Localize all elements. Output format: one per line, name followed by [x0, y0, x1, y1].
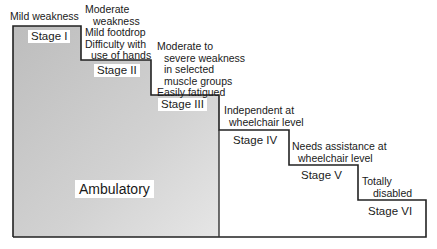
stage-5-label: Stage V	[298, 169, 345, 182]
stage-2-label: Stage II	[94, 64, 140, 77]
desc-line: Mild footdrop	[85, 26, 146, 38]
stage-1-label: Stage I	[28, 30, 70, 43]
stage-4-description: Independent at wheelchair level	[224, 105, 304, 128]
stage-5-description: Needs assistance at wheelchair level	[292, 141, 387, 164]
desc-line: Moderate to	[157, 40, 213, 52]
desc-line: muscle groups	[157, 75, 232, 87]
desc-line: Totally	[362, 175, 392, 187]
stage-4-label: Stage IV	[230, 134, 280, 147]
desc-line: Difficulty with	[85, 38, 146, 50]
stage-2-description: Moderate weakness Mild footdrop Difficul…	[85, 4, 151, 62]
desc-line: Independent at	[224, 104, 294, 116]
stage-3-label: Stage III	[158, 98, 207, 111]
desc-line: use of hands	[85, 49, 151, 61]
desc-line: Mild weakness	[10, 10, 79, 22]
desc-line: Easily fatigued	[157, 86, 225, 98]
desc-line: in selected	[157, 63, 214, 75]
stage-1-description: Mild weakness	[10, 11, 79, 23]
desc-line: Moderate	[85, 3, 129, 15]
ambulatory-label: Ambulatory	[75, 180, 154, 198]
desc-line: severe weakness	[157, 52, 245, 64]
desc-line: wheelchair level	[292, 152, 373, 164]
desc-line: disabled	[362, 187, 412, 199]
stage-6-description: Totally disabled	[362, 176, 412, 199]
desc-line: Needs assistance at	[292, 140, 387, 152]
stage-3-description: Moderate to severe weakness in selected …	[157, 41, 245, 99]
stage-6-label: Stage VI	[365, 205, 415, 218]
desc-line: wheelchair level	[224, 116, 304, 128]
